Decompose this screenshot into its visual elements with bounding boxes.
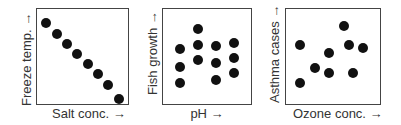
x-axis-label: Ozone conc. → [293, 106, 379, 121]
data-point [339, 21, 349, 31]
scatter-panel-ozone-asthma: Asthma cases → Ozone conc. → [0, 0, 401, 125]
data-point [324, 48, 334, 58]
data-point [310, 63, 320, 73]
data-point [295, 78, 305, 88]
plot-area [285, 8, 381, 105]
y-axis-label: Asthma cases → [267, 5, 282, 103]
data-point [348, 68, 358, 78]
data-point [295, 40, 305, 50]
data-point [324, 68, 334, 78]
data-point [344, 40, 354, 50]
data-point [358, 43, 368, 53]
